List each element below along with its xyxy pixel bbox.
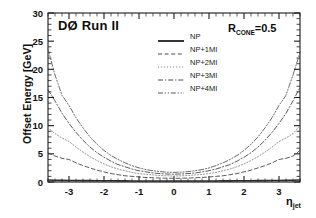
legend-line-swatch [158,84,184,94]
cone-label-prefix: R [228,22,236,34]
cone-label-value: =0.5 [255,22,277,34]
y-tick-label: 25 [32,36,43,47]
legend-line-swatch [158,32,184,42]
y-tick-label: 5 [38,148,44,159]
x-tick-label: 1 [206,186,212,197]
x-axis-label-subscript: jet [293,202,301,209]
experiment-title: DØ Run II [58,18,119,33]
x-tick-label: 2 [241,186,246,197]
legend-entry-np-4mi: NP+4MI [158,82,217,95]
figure-canvas: 051015202530-3-2-10123 Offset Energy [Ge… [0,0,316,218]
x-axis-label-symbol: η [286,195,293,207]
legend-line-swatch [158,71,184,81]
cone-size-annotation: RCONE=0.5 [228,22,276,36]
legend-label: NP+1MI [190,45,217,54]
series-line-np-1mi [48,150,300,178]
legend-entry-np-1mi: NP+1MI [158,43,217,56]
x-tick-label: -2 [100,186,108,197]
y-tick-label: 15 [32,92,43,103]
y-tick-label: 10 [32,120,43,131]
legend-line-swatch [158,45,184,55]
series-line-np-2mi [48,126,300,176]
x-tick-label: -1 [135,186,144,197]
legend-entry-np-3mi: NP+3MI [158,69,217,82]
legend-line-swatch [158,58,184,68]
legend-entry-np-2mi: NP+2MI [158,56,217,69]
x-axis-label: ηjet [286,195,301,209]
legend-label: NP+3MI [190,71,217,80]
y-axis-label: Offset Energy [GeV] [21,19,33,169]
x-tick-label: 3 [276,186,281,197]
cone-label-subscript: CONE [236,29,255,36]
y-tick-label: 0 [38,177,43,188]
x-tick-label: -3 [65,186,73,197]
legend-label: NP+2MI [190,58,217,67]
chart-legend: NPNP+1MINP+2MINP+3MINP+4MI [158,30,217,95]
y-tick-label: 30 [32,8,43,19]
legend-label: NP [190,32,200,41]
legend-entry-np: NP [158,30,217,43]
y-tick-label: 20 [32,64,43,75]
x-tick-label: 0 [171,186,176,197]
legend-label: NP+4MI [190,84,217,93]
